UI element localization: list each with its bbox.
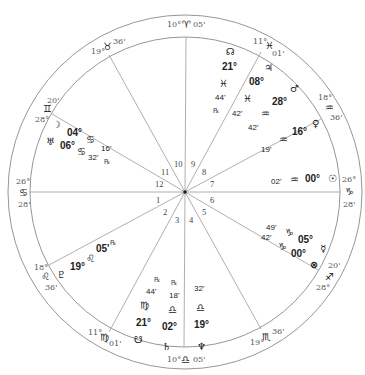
uranus-degree: 06°: [60, 140, 75, 151]
mercury-icon: ☿: [320, 243, 326, 254]
taurus-icon: ♉: [103, 41, 112, 52]
capricorn-icon: ♑: [345, 186, 354, 197]
retrograde-icon: ℞: [213, 107, 219, 115]
mc-degree: 10°: [167, 20, 181, 29]
neptune-icon: ♆: [197, 341, 206, 352]
natal-chart: 1 2 3 4 5 6 7 8 9 10 11 12 10° ♈ 05' 10°…: [0, 0, 365, 375]
house-number-4: 4: [189, 215, 194, 225]
retrograde-icon: ℞: [171, 279, 177, 287]
cancer-icon: ♋: [19, 187, 28, 198]
north-node-minutes: 44': [215, 93, 226, 102]
libra-icon: ♎: [168, 304, 177, 315]
planet-south-node[interactable]: ☋ 21° ♍ 44' ℞: [134, 276, 160, 345]
libra-icon: ♎: [181, 354, 190, 365]
cusp12-degree: 28°: [35, 115, 49, 124]
neptune-degree: 19°: [194, 319, 209, 330]
pisces-icon: ♓: [219, 78, 228, 89]
cusp6-minutes: 20': [328, 261, 340, 270]
aquarius-icon: ♒: [325, 102, 334, 113]
part-of-fortune-icon: ⊗: [310, 259, 318, 270]
house-number-10: 10: [174, 159, 183, 169]
dsc-minutes: 28': [343, 200, 355, 209]
sun-icon: ☉: [328, 173, 337, 184]
asc-degree: 26°: [16, 177, 30, 186]
capricorn-icon: ♑: [278, 241, 287, 252]
gemini-icon: ♊: [43, 103, 52, 114]
retrograde-icon: ℞: [110, 239, 116, 247]
asc-minutes: 28': [18, 200, 30, 209]
capricorn-icon: ♑: [285, 227, 294, 238]
venus-minutes: 19': [261, 145, 272, 154]
planet-sun[interactable]: ☉ 00° ♒ 02': [271, 173, 337, 186]
south-node-icon: ☋: [134, 334, 143, 345]
aquarius-icon: ♒: [290, 174, 299, 185]
aquarius-icon: ♒: [261, 108, 270, 119]
sun-degree: 00°: [305, 173, 320, 184]
leo-icon: ♌: [41, 271, 50, 282]
cusp3-minutes: 01': [109, 339, 121, 348]
part-of-fortune-minutes: 42': [261, 233, 272, 242]
house-number-9: 9: [191, 159, 195, 169]
moon-minutes: 16': [101, 144, 112, 153]
planet-mars[interactable]: ♂ 28° ♒ 42': [248, 83, 299, 132]
mars-icon: ♂: [290, 83, 299, 94]
retrograde-icon: ℞: [104, 158, 110, 166]
cusp6-degree: 28°: [316, 283, 330, 292]
pluto-icon: ♇: [57, 269, 66, 280]
cusp8-degree: 18°: [318, 93, 332, 102]
dsc-degree: 26°: [342, 175, 356, 184]
jupiter-degree: 08°: [249, 76, 264, 87]
south-node-minutes: 44': [146, 287, 157, 296]
virgo-icon: ♍: [140, 300, 149, 311]
planet-north-node[interactable]: ☊ 21° ♓ 44' ℞: [213, 46, 237, 115]
chart-center: [183, 190, 187, 194]
saturn-minutes: 18': [169, 291, 180, 300]
virgo-icon: ♍: [100, 332, 109, 343]
jupiter-minutes: 42': [232, 109, 243, 118]
part-of-fortune-degree: 00°: [291, 248, 306, 259]
sun-minutes: 02': [271, 177, 282, 186]
aquarius-icon: ♒: [279, 134, 288, 145]
south-node-degree: 21°: [136, 317, 151, 328]
pluto-degree: 19°: [70, 261, 85, 272]
scorpio-icon: ♏: [262, 331, 271, 342]
north-node-degree: 21°: [222, 61, 237, 72]
saturn-icon: ♄: [162, 341, 171, 352]
pisces-icon: ♓: [243, 93, 252, 104]
house-number-5: 5: [202, 207, 206, 217]
house-number-1: 1: [156, 195, 160, 205]
cusp8-minutes: 36': [330, 113, 342, 122]
house-number-3: 3: [175, 215, 179, 225]
neptune-minutes: 32': [194, 284, 205, 293]
house-number-8: 8: [202, 167, 206, 177]
ic-minutes: 05': [193, 355, 205, 364]
mars-minutes: 42': [248, 123, 259, 132]
north-node-icon: ☊: [226, 46, 235, 57]
pluto-minutes: 05': [96, 243, 110, 254]
house-number-2: 2: [163, 207, 167, 217]
cusp5-minutes: 36': [272, 327, 284, 336]
saturn-degree: 02°: [162, 321, 177, 332]
cusp11-minutes: 36': [113, 37, 125, 46]
planet-saturn[interactable]: ♄ 02° ♎ 18' ℞: [162, 279, 180, 352]
cusp2-minutes: 36': [45, 283, 57, 292]
aries-icon: ♈: [182, 19, 191, 30]
cancer-icon: ♋: [77, 146, 86, 157]
ic-degree: 10°: [167, 355, 181, 364]
venus-degree: 16°: [292, 126, 307, 137]
venus-icon: ♀: [312, 118, 319, 129]
libra-icon: ♎: [196, 302, 205, 313]
house-number-7: 7: [210, 179, 214, 189]
uranus-icon: ♅: [46, 136, 55, 147]
moon-icon: ☽: [52, 119, 61, 130]
mc-minutes: 05': [193, 20, 205, 29]
house-number-6: 6: [210, 195, 214, 205]
mercury-minutes: 49': [266, 223, 277, 232]
sagittarius-icon: ♐: [325, 271, 334, 282]
planet-neptune[interactable]: ♆ 19° ♎ 32': [194, 284, 209, 352]
mars-degree: 28°: [272, 96, 287, 107]
jupiter-icon: ♃: [264, 62, 273, 73]
uranus-minutes: 32': [88, 153, 99, 162]
house-number-11: 11: [161, 167, 169, 177]
leo-icon: ♌: [86, 253, 95, 264]
